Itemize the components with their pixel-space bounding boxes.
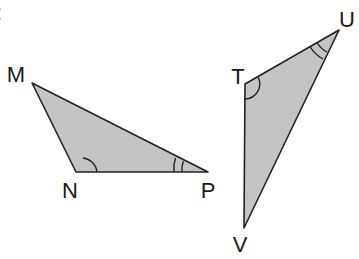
vertex-label-u: U xyxy=(339,7,355,32)
triangle-mnp-shape xyxy=(32,83,208,172)
corner-mark: : xyxy=(0,0,2,25)
vertex-label-t: T xyxy=(231,64,244,89)
vertex-label-p: P xyxy=(201,178,216,203)
vertex-label-n: N xyxy=(62,178,78,203)
vertex-label-m: M xyxy=(7,62,25,87)
triangle-tuv: T U V xyxy=(231,7,355,257)
vertex-label-v: V xyxy=(233,232,248,257)
similar-triangles-diagram: : M N P T U V xyxy=(0,0,359,259)
triangle-tuv-shape xyxy=(244,30,339,228)
triangle-mnp: M N P xyxy=(7,62,216,203)
diagram-canvas: : M N P T U V xyxy=(0,0,359,259)
